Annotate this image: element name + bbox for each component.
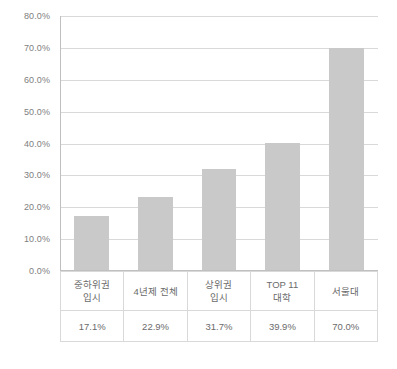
y-axis-tick-label: 70.0% — [24, 43, 50, 53]
plot-area — [60, 16, 378, 271]
table-cell-category: TOP 11대학 — [251, 272, 314, 311]
table-row-categories: 중하위권입시4년제 전체상위권입시TOP 11대학서울대 — [61, 272, 378, 311]
bar-slot — [251, 16, 315, 270]
category-label-line: 입시 — [61, 291, 123, 304]
category-label-line: 입시 — [188, 291, 250, 304]
table-cell-category: 중하위권입시 — [61, 272, 124, 311]
y-axis-tick-label: 40.0% — [24, 139, 50, 149]
category-label-line: 중하위권 — [61, 278, 123, 291]
table-cell-value: 31.7% — [187, 311, 250, 342]
category-label-line: 대학 — [251, 291, 313, 304]
bar[interactable] — [265, 143, 300, 270]
bar[interactable] — [329, 48, 364, 270]
bar[interactable] — [202, 169, 237, 270]
y-axis: 0.0%10.0%20.0%30.0%40.0%50.0%60.0%70.0%8… — [0, 16, 55, 271]
y-axis-tick-label: 50.0% — [24, 107, 50, 117]
y-axis-tick-label: 20.0% — [24, 202, 50, 212]
table-cell-category: 상위권입시 — [187, 272, 250, 311]
bar[interactable] — [74, 216, 109, 270]
category-label-line: 서울대 — [315, 285, 377, 298]
data-table: 중하위권입시4년제 전체상위권입시TOP 11대학서울대 17.1%22.9%3… — [60, 271, 378, 342]
category-label-line: 4년제 전체 — [124, 285, 186, 298]
y-axis-tick-label: 60.0% — [24, 75, 50, 85]
bar-slot — [314, 16, 378, 270]
bar-chart: 0.0%10.0%20.0%30.0%40.0%50.0%60.0%70.0%8… — [0, 0, 397, 369]
table-cell-category: 4년제 전체 — [124, 272, 187, 311]
table-cell-category: 서울대 — [314, 272, 377, 311]
category-label-line: 상위권 — [188, 278, 250, 291]
bar-slot — [124, 16, 188, 270]
table-row-values: 17.1%22.9%31.7%39.9%70.0% — [61, 311, 378, 342]
table-cell-value: 17.1% — [61, 311, 124, 342]
bar-slot — [60, 16, 124, 270]
category-label-line: TOP 11 — [251, 278, 313, 291]
y-axis-tick-label: 10.0% — [24, 234, 50, 244]
y-axis-tick-label: 80.0% — [24, 11, 50, 21]
table-cell-value: 70.0% — [314, 311, 377, 342]
y-axis-tick-label: 30.0% — [24, 170, 50, 180]
table-cell-value: 39.9% — [251, 311, 314, 342]
bars-layer — [60, 16, 378, 271]
bar[interactable] — [138, 197, 173, 270]
y-axis-tick-label: 0.0% — [29, 266, 50, 276]
bar-slot — [187, 16, 251, 270]
table-cell-value: 22.9% — [124, 311, 187, 342]
